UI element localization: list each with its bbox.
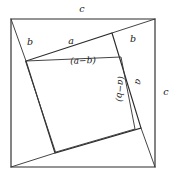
- geometric-figure-container: c c b a b (a−b) (a−b) a: [0, 0, 173, 181]
- label-b-left: b: [27, 36, 33, 47]
- label-b-right: b: [130, 33, 136, 44]
- label-c-top: c: [79, 3, 85, 14]
- figure-svg-canvas: c c b a b (a−b) (a−b) a: [0, 0, 173, 181]
- label-c-right: c: [163, 86, 169, 97]
- label-a-top: a: [68, 35, 74, 46]
- figure-background: [0, 0, 173, 181]
- label-a-minus-b-top: (a−b): [70, 55, 97, 66]
